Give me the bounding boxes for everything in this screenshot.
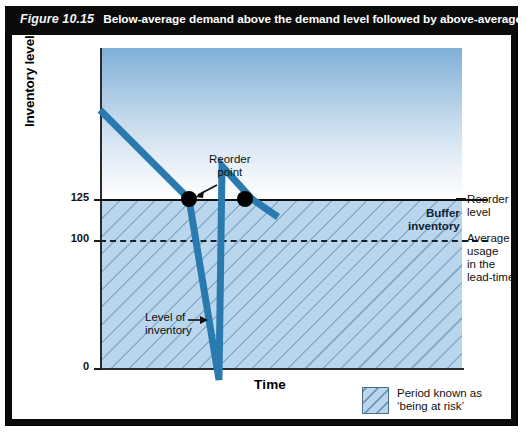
y-tick-label-0: 0	[83, 360, 89, 372]
legend-swatch-hatched	[362, 387, 389, 414]
reorder-level-label-line1: Reorder	[467, 193, 509, 206]
level-of-inventory-annotation: Level of inventory	[145, 311, 192, 337]
average-usage-label-line2: usage	[467, 245, 511, 258]
buffer-inventory-label: Buffer inventory	[408, 207, 460, 233]
average-usage-dashed-line	[100, 240, 488, 242]
x-axis-line	[100, 368, 464, 370]
legend-label-line1: Period known as	[397, 387, 482, 400]
reorder-point-annotation-line2: point	[209, 166, 251, 179]
plot-background-gradient	[100, 48, 462, 200]
reorder-level-label-line2: level	[467, 206, 509, 219]
reorder-level-line	[100, 199, 488, 201]
y-tick-100: 100	[94, 240, 101, 242]
figure-number: Figure 10.15	[20, 12, 94, 26]
buffer-inventory-label-line2: inventory	[408, 220, 460, 233]
y-tick-label-100: 100	[71, 232, 89, 244]
legend: Period known as ‘being at risk’	[362, 387, 482, 414]
reorder-level-label: Reorder level	[467, 193, 509, 219]
y-tick-label-125: 125	[71, 191, 89, 203]
figure-root: Figure 10.15 Below-average demand above …	[0, 0, 531, 438]
figure-title-bar: Figure 10.15 Below-average demand above …	[5, 6, 518, 32]
buffer-inventory-label-line1: Buffer	[408, 207, 460, 220]
figure-canvas: Inventory level (units) 125 100 0	[12, 35, 511, 419]
y-tick-125: 125	[94, 199, 101, 201]
legend-label-line2: ‘being at risk’	[397, 400, 482, 413]
y-axis-title: Inventory level (units)	[22, 35, 37, 127]
average-usage-label-line1: Average	[467, 232, 511, 245]
figure-title: Below-average demand above the demand le…	[103, 12, 518, 26]
average-usage-label-line4: lead-time	[467, 271, 511, 284]
reorder-point-annotation-line1: Reorder	[209, 153, 251, 166]
level-of-inventory-annotation-line1: Level of	[145, 311, 192, 324]
y-tick-0: 0	[94, 368, 101, 370]
x-axis-title: Time	[254, 377, 286, 392]
level-of-inventory-annotation-line2: inventory	[145, 324, 192, 337]
average-usage-label: Average usage in the lead-time	[467, 232, 511, 284]
y-axis-line	[100, 48, 102, 370]
reorder-point-annotation: Reorder point	[209, 153, 251, 179]
legend-label: Period known as ‘being at risk’	[397, 387, 482, 413]
average-usage-label-line3: in the	[467, 258, 511, 271]
